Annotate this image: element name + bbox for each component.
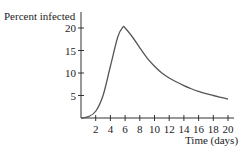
y-tick-label: 10 (65, 67, 77, 79)
x-tick-label: 10 (149, 123, 161, 135)
x-tick-label: 12 (164, 123, 175, 135)
y-axis-label: Percent infected (4, 10, 76, 22)
x-tick-label: 2 (93, 123, 99, 135)
chart: Percent infected 5101520 246810121416182… (0, 0, 242, 155)
x-tick-label: 6 (122, 123, 128, 135)
y-tick-label: 20 (65, 22, 77, 34)
y-tick-label: 15 (65, 45, 77, 57)
x-axis-label: Time (days) (185, 134, 238, 147)
y-tick-label: 5 (71, 90, 77, 102)
x-tick-label: 4 (108, 123, 114, 135)
x-tick-label: 8 (137, 123, 143, 135)
infection-curve (81, 26, 228, 118)
